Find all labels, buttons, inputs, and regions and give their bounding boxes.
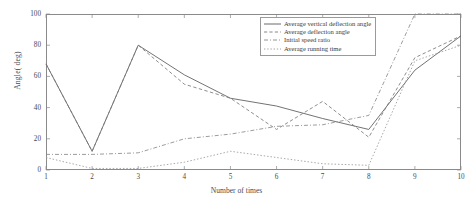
series-line: [46, 45, 461, 168]
legend-line-dotted-icon: [264, 45, 281, 53]
legend-item-label: Average deflection angle: [284, 28, 350, 36]
chart-root: 020406080100 12345678910 Angle( deg) Num…: [0, 0, 473, 203]
x-tick-label: 9: [405, 173, 425, 181]
legend-item-label: Average vertical deflection angle: [284, 20, 371, 28]
x-tick-label: 5: [220, 173, 240, 181]
y-tick-label: 60: [19, 72, 41, 80]
legend-item-label: Initial speed ratio: [284, 36, 330, 44]
legend-line-dashdot-icon: [264, 36, 281, 44]
legend-item: Average vertical deflection angle: [264, 20, 371, 28]
x-tick-label: 3: [128, 173, 148, 181]
y-tick-label: 20: [19, 135, 41, 143]
legend-item-label: Average running time: [284, 45, 341, 53]
x-tick-label: 8: [359, 173, 379, 181]
y-tick-label: 40: [19, 104, 41, 112]
x-tick-label: 7: [313, 173, 333, 181]
legend-line-dashed-icon: [264, 28, 281, 36]
x-tick-label: 2: [82, 173, 102, 181]
x-tick-label: 1: [36, 173, 56, 181]
legend-line-solid-icon: [264, 20, 281, 28]
legend-item: Average deflection angle: [264, 28, 371, 36]
y-tick-label: 80: [19, 41, 41, 49]
legend-item: Initial speed ratio: [264, 36, 371, 44]
x-tick-label: 10: [451, 173, 471, 181]
legend-item: Average running time: [264, 45, 371, 53]
series-line: [46, 14, 461, 154]
series-line: [46, 36, 461, 151]
x-axis-label: Number of times: [0, 186, 473, 195]
y-tick-label: 100: [19, 10, 41, 18]
legend: Average vertical deflection angle Averag…: [260, 17, 376, 56]
x-tick-label: 4: [174, 173, 194, 181]
series-line: [46, 36, 461, 151]
y-axis-label: Angle( deg): [13, 36, 22, 106]
x-tick-label: 6: [267, 173, 287, 181]
